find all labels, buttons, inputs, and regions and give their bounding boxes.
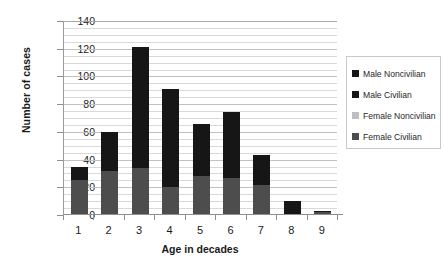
bar-segment-female-civilian [193, 176, 210, 215]
x-axis-tick-label: 5 [185, 224, 215, 236]
y-axis-title: Number of cases [20, 20, 32, 160]
bar-segment-female-civilian [101, 171, 118, 215]
x-axis-tick [63, 215, 64, 220]
legend-swatch-icon [352, 112, 359, 119]
x-axis-tick-label: 7 [246, 224, 276, 236]
bar-segment-male-civilian [71, 167, 88, 181]
legend-swatch-icon [352, 133, 359, 140]
bar-chart: Number of cases 020406080100120140 12345… [0, 0, 444, 265]
x-axis-tick [185, 215, 186, 220]
legend-item-label: Male Civilian [363, 90, 412, 100]
x-axis-tick [93, 215, 94, 220]
x-axis-tick [154, 215, 155, 220]
bar-segment-male-civilian [223, 112, 240, 177]
x-axis-line [64, 214, 343, 215]
plot-area [63, 21, 337, 215]
bar-segment-male-civilian [193, 124, 210, 177]
x-axis-tick-label: 8 [276, 224, 306, 236]
x-axis-tick [307, 215, 308, 220]
bar-segment-male-civilian [101, 132, 118, 171]
x-axis-tick-label: 2 [94, 224, 124, 236]
legend-item-label: Female Civilian [363, 132, 422, 142]
legend-item[interactable]: Female Civilian [352, 126, 440, 147]
bar [132, 47, 149, 215]
legend-swatch-icon [352, 70, 359, 77]
bar [193, 124, 210, 215]
bar [223, 112, 240, 215]
x-axis-title: Age in decades [63, 243, 337, 255]
x-axis-tick [215, 215, 216, 220]
legend-item-label: Female Noncivilian [363, 111, 436, 121]
x-axis-tick [337, 215, 338, 220]
bar-series-group [64, 21, 337, 215]
legend-item-label: Male Noncivilian [363, 69, 426, 79]
x-axis-tick [276, 215, 277, 220]
legend-item[interactable]: Male Noncivilian [352, 63, 440, 84]
bar-segment-male-civilian [284, 201, 301, 213]
bar [253, 155, 270, 215]
chart-legend: Male NoncivilianMale CivilianFemale Nonc… [346, 56, 441, 149]
bar [71, 167, 88, 215]
bar-segment-female-civilian [71, 180, 88, 215]
bar-segment-female-civilian [253, 185, 270, 215]
bar-segment-female-civilian [162, 187, 179, 215]
bar-segment-male-civilian [162, 89, 179, 187]
legend-item[interactable]: Male Civilian [352, 84, 440, 105]
bar-segment-female-civilian [223, 178, 240, 215]
bar [101, 132, 118, 215]
x-axis-tick [124, 215, 125, 220]
x-axis-tick-label: 3 [124, 224, 154, 236]
legend-item[interactable]: Female Noncivilian [352, 105, 440, 126]
x-axis-tick-label: 1 [63, 224, 93, 236]
bar-segment-male-civilian [253, 155, 270, 184]
bar-segment-female-civilian [132, 168, 149, 215]
x-axis-tick [246, 215, 247, 220]
bar-segment-male-civilian [132, 47, 149, 168]
x-axis-tick-label: 4 [155, 224, 185, 236]
x-axis-tick-label: 9 [307, 224, 337, 236]
x-axis-tick-label: 6 [215, 224, 245, 236]
legend-swatch-icon [352, 91, 359, 98]
bar [162, 89, 179, 215]
